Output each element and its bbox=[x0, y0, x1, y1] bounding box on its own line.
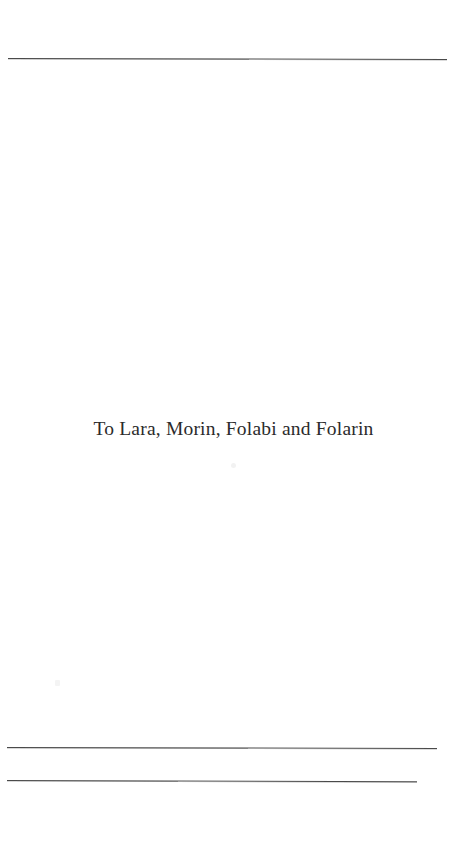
top-horizontal-rule bbox=[8, 58, 447, 60]
bottom-horizontal-rule-upper bbox=[7, 747, 437, 749]
bottom-horizontal-rule-lower bbox=[7, 780, 417, 782]
scanned-page: To Lara, Morin, Folabi and Folarin bbox=[0, 0, 459, 862]
dedication-text: To Lara, Morin, Folabi and Folarin bbox=[0, 417, 459, 441]
scan-speck-icon bbox=[55, 680, 60, 686]
scan-speck-icon bbox=[231, 463, 236, 468]
